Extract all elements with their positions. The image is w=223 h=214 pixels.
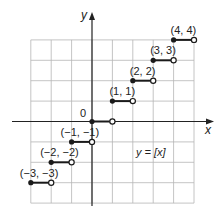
point-label: (2, 2)	[130, 65, 156, 77]
y-axis-label: y	[80, 8, 88, 22]
open-endpoint-icon	[110, 119, 115, 124]
open-endpoint-icon	[89, 139, 94, 144]
closed-endpoint-icon	[28, 180, 33, 185]
point-label: (3, 3)	[150, 44, 176, 56]
x-axis-label: x	[204, 123, 212, 137]
step-function-diagram: x y 0 (−3, −3)(−2, −2)(−1, −1)(1, 1)(2, …	[0, 0, 223, 214]
open-endpoint-icon	[151, 78, 156, 83]
point-label: (4, 4)	[171, 24, 197, 36]
open-endpoint-icon	[130, 99, 135, 104]
point-label: (−3, −3)	[20, 167, 59, 179]
y-axis-arrow-icon	[89, 12, 95, 20]
origin-label: 0	[80, 107, 86, 119]
point-label: (−1, −1)	[61, 126, 100, 138]
closed-endpoint-icon	[130, 78, 135, 83]
point-label: (1, 1)	[109, 85, 135, 97]
open-endpoint-icon	[69, 160, 74, 165]
equation-label: y = [x]	[135, 146, 167, 158]
closed-endpoint-icon	[49, 160, 54, 165]
closed-endpoint-icon	[89, 119, 94, 124]
open-endpoint-icon	[49, 180, 54, 185]
closed-endpoint-icon	[171, 37, 176, 42]
closed-endpoint-icon	[69, 139, 74, 144]
open-endpoint-icon	[171, 58, 176, 63]
point-label: (−2, −2)	[40, 146, 79, 158]
closed-endpoint-icon	[151, 58, 156, 63]
open-endpoint-icon	[191, 37, 196, 42]
closed-endpoint-icon	[110, 99, 115, 104]
